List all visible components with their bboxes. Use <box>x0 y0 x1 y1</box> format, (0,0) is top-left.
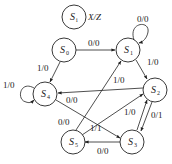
edge-label-s0-s4: 1/0 <box>37 63 49 73</box>
state-s3-symbol: S <box>128 136 133 147</box>
state-s2-symbol: S <box>151 84 156 95</box>
state-s0: S 0 <box>52 38 76 62</box>
edge-label-s2-s4: 1/0 <box>113 75 125 85</box>
state-s0-symbol: S <box>60 44 65 55</box>
edge-label-s1-s1: 0/0 <box>137 14 149 24</box>
state-s4: S 4 <box>33 82 57 106</box>
state-s0-subscript: 0 <box>66 50 69 56</box>
state-diagram: S i X/Z 0/0 1/0 0/0 1/0 1/0 0/1 1/0 0/0 … <box>0 0 172 164</box>
state-s4-subscript: 4 <box>47 94 50 100</box>
legend-state-symbol: S <box>70 11 75 22</box>
states: S 0 S 1 S 2 S 3 S 4 S 5 <box>33 38 167 154</box>
state-s1-symbol: S <box>124 44 129 55</box>
edge-label-s3-s2: 1/0 <box>124 107 136 117</box>
state-s1: S 1 <box>116 38 140 62</box>
state-s3: S 3 <box>120 130 144 154</box>
edge-s1-s2 <box>136 60 147 79</box>
edge-s3-s2 <box>137 100 147 130</box>
state-s2: S 2 <box>143 78 167 102</box>
edge-label-s2-s3: 0/1 <box>151 110 163 120</box>
state-s1-subscript: 1 <box>130 50 133 56</box>
legend: S i X/Z <box>62 5 102 29</box>
legend-io-label: X/Z <box>87 12 102 22</box>
edge-label-s5-s1: 0/0 <box>58 117 70 127</box>
edge-s4-s4 <box>20 86 34 102</box>
edge-label-s4-s3: 0/0 <box>66 95 78 105</box>
edge-label-s1-s2: 1/0 <box>147 57 159 67</box>
state-s3-subscript: 3 <box>134 142 137 148</box>
edge-label-s5-s2: 1/1 <box>90 123 102 133</box>
state-s2-subscript: 2 <box>157 90 160 96</box>
state-s5-subscript: 5 <box>75 142 78 148</box>
edge-label-s4-s4: 1/0 <box>3 80 15 90</box>
edge-label-s3-s5: 0/0 <box>97 146 109 156</box>
edge-label-s0-s1: 0/0 <box>88 38 100 48</box>
state-s5-symbol: S <box>69 136 74 147</box>
edge-s0-s4 <box>50 62 60 82</box>
state-s4-symbol: S <box>41 88 46 99</box>
state-s5: S 5 <box>61 130 85 154</box>
edge-s5-s1 <box>76 61 121 130</box>
